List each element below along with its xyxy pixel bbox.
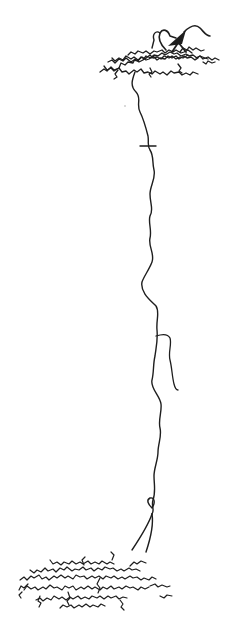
neuron-illustration — [0, 0, 238, 629]
stray-dot — [124, 105, 126, 107]
